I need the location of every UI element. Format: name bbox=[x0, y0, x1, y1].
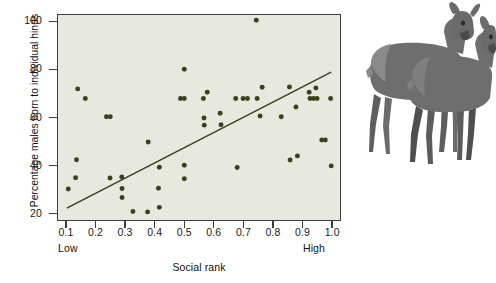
x-tick-label: 0.7 bbox=[228, 226, 258, 238]
y-tick-mark bbox=[49, 117, 57, 118]
trend-line bbox=[67, 72, 331, 208]
data-point bbox=[66, 187, 71, 192]
chart-area: Percentage males born to individual hind… bbox=[0, 0, 356, 283]
data-point bbox=[233, 96, 238, 101]
data-point bbox=[145, 209, 150, 214]
data-point bbox=[254, 18, 259, 23]
data-point bbox=[323, 137, 328, 142]
data-point bbox=[146, 140, 151, 145]
data-point bbox=[119, 175, 124, 180]
y-tick-mark bbox=[49, 165, 57, 166]
y-tick-label: 100 bbox=[8, 14, 42, 26]
y-tick-label: 20 bbox=[8, 207, 42, 219]
x-tick-label: 0.4 bbox=[140, 226, 170, 238]
data-point bbox=[202, 115, 207, 120]
deer-illustration-panel bbox=[356, 2, 496, 200]
data-point bbox=[202, 123, 207, 128]
y-tick-label: 80 bbox=[8, 62, 42, 74]
data-point bbox=[218, 111, 223, 116]
data-point bbox=[157, 205, 162, 210]
x-tick-label: 0.8 bbox=[258, 226, 288, 238]
x-axis-high-label: High bbox=[303, 242, 325, 254]
data-point bbox=[83, 96, 88, 101]
data-point bbox=[295, 153, 300, 158]
y-tick-mark bbox=[49, 21, 57, 22]
data-point bbox=[329, 163, 334, 168]
two-red-deer-hinds-icon bbox=[356, 2, 496, 200]
data-point bbox=[293, 105, 298, 110]
data-point bbox=[260, 85, 265, 90]
data-point bbox=[205, 90, 210, 95]
x-tick-label: 0.6 bbox=[199, 226, 229, 238]
x-tick-label: 0.2 bbox=[80, 226, 110, 238]
data-point bbox=[219, 122, 224, 127]
data-point bbox=[313, 85, 318, 90]
x-axis-low-label: Low bbox=[58, 242, 78, 254]
data-point bbox=[241, 96, 246, 101]
data-points bbox=[66, 18, 334, 215]
y-tick-mark bbox=[49, 69, 57, 70]
x-tick-label: 0.1 bbox=[51, 226, 81, 238]
data-point bbox=[288, 157, 293, 162]
data-point bbox=[182, 67, 187, 72]
data-point bbox=[258, 114, 263, 119]
data-point bbox=[201, 96, 206, 101]
x-tick-label: 0.9 bbox=[288, 226, 318, 238]
x-tick-label: 0.5 bbox=[169, 226, 199, 238]
data-point bbox=[74, 157, 79, 162]
x-axis-label: Social rank bbox=[57, 261, 341, 273]
y-tick-label: 40 bbox=[8, 159, 42, 171]
plot-frame bbox=[57, 14, 341, 221]
y-tick-label: 60 bbox=[8, 111, 42, 123]
data-point bbox=[307, 90, 312, 95]
data-point bbox=[315, 96, 320, 101]
regression-line bbox=[67, 72, 331, 208]
data-point bbox=[245, 96, 250, 101]
data-point bbox=[287, 85, 292, 90]
data-point bbox=[328, 96, 333, 101]
data-point bbox=[157, 165, 162, 170]
data-point bbox=[182, 96, 187, 101]
data-point bbox=[108, 176, 113, 181]
data-point bbox=[235, 165, 240, 170]
x-tick-label: 0.3 bbox=[110, 226, 140, 238]
data-point bbox=[75, 86, 80, 91]
plot-canvas bbox=[58, 15, 340, 220]
data-point bbox=[182, 163, 187, 168]
data-point bbox=[120, 195, 125, 200]
data-point bbox=[108, 114, 113, 119]
data-point bbox=[120, 186, 125, 191]
x-tick-label: 1.0 bbox=[317, 226, 347, 238]
data-point bbox=[156, 186, 161, 191]
y-tick-mark bbox=[49, 213, 57, 214]
data-point bbox=[279, 114, 284, 119]
data-point bbox=[130, 209, 135, 214]
data-point bbox=[255, 96, 260, 101]
data-point bbox=[182, 176, 187, 181]
figure-scatter-social-rank: Percentage males born to individual hind… bbox=[0, 0, 496, 283]
data-point bbox=[73, 175, 78, 180]
